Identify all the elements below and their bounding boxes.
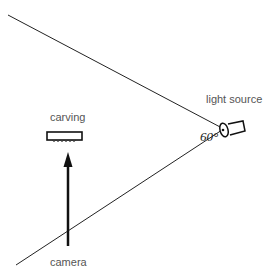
carving-shape (47, 132, 82, 142)
light-source-icon (218, 121, 245, 138)
upper-light-ray (8, 15, 222, 128)
light-source-label: light source (206, 93, 262, 105)
camera-arrow (64, 152, 73, 246)
angle-label: 60° (200, 129, 218, 144)
diagram-canvas: 60° (0, 0, 280, 280)
angle-annotation: 60° (200, 129, 218, 144)
lower-light-ray (16, 130, 222, 265)
camera-label: camera (50, 256, 87, 268)
carving-label: carving (50, 111, 85, 123)
